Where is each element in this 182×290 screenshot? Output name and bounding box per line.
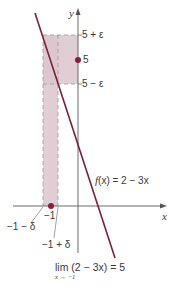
function-label-expression: (x) = 2 − 3x [98, 175, 149, 186]
epsilon-band [43, 35, 78, 84]
x-label-right: −1 + δ [42, 240, 70, 250]
y-axis-label: y [69, 8, 74, 19]
epsilon-delta-limit-diagram: y x 5 + ε 5 5 − ε f(x) = 2 − 3x −1 −1 − … [0, 0, 182, 290]
y-label-upper: 5 + ε [82, 30, 103, 40]
plot-canvas [0, 0, 182, 290]
y-label-lower: 5 − ε [82, 79, 103, 89]
y-label-center: 5 [83, 55, 89, 65]
limit-expression-main: lim (2 − 3x) = 5 [55, 262, 125, 273]
x-label-left: −1 − δ [7, 222, 35, 232]
x-axis-arrow-icon [160, 204, 167, 209]
limit-expression: lim (2 − 3x) = 5 x → −1 [55, 262, 125, 280]
x-axis-label: x [162, 211, 167, 222]
point-x-minus-one [48, 203, 54, 209]
function-label: f(x) = 2 − 3x [95, 175, 149, 186]
x-label-center: −1 [44, 211, 55, 221]
limit-expression-subscript: x → −1 [55, 274, 125, 281]
y-axis-arrow-icon [76, 8, 81, 15]
limit-point-y [75, 57, 81, 63]
